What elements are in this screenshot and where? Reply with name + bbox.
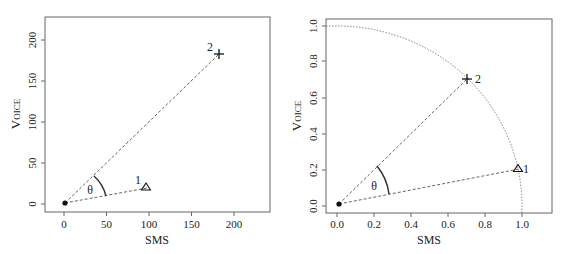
- x-tick-label: 100: [141, 218, 158, 230]
- right-x-axis-label: SMS: [417, 233, 441, 247]
- y-tick-label: 1.0: [307, 19, 319, 33]
- right-plot: 0.0 0.2 0.4 0.6 0.8 1.0 SMS 0.0 0.2 0.4 …: [289, 19, 552, 247]
- theta-label: θ: [371, 179, 377, 193]
- left-y-axis: [41, 40, 45, 204]
- y-tick-label: 0.4: [307, 127, 319, 141]
- x-tick-label: 0.2: [367, 218, 381, 230]
- origin-point-marker: [62, 200, 67, 205]
- left-x-tick-labels: 0 50 100 150 200: [61, 218, 243, 230]
- point-2-label: 2: [475, 72, 481, 86]
- point-1-label: 1: [523, 162, 529, 176]
- y-tick-label: 50: [26, 157, 38, 169]
- left-x-axis-label: SMS: [145, 233, 169, 247]
- point-1-label: 1: [135, 173, 141, 187]
- x-tick-label: 0.6: [441, 218, 455, 230]
- left-x-axis: [64, 212, 234, 216]
- left-plot-frame: [45, 17, 270, 212]
- y-tick-label: 150: [26, 72, 38, 89]
- x-tick-label: 50: [101, 218, 113, 230]
- origin-point-marker: [336, 201, 341, 206]
- x-tick-label: 1.0: [515, 218, 529, 230]
- right-y-axis: [322, 26, 326, 206]
- x-tick-label: 150: [183, 218, 200, 230]
- vector-line-2: [339, 78, 468, 204]
- y-tick-label: 0.6: [307, 91, 319, 105]
- y-tick-label: 0.8: [307, 54, 319, 68]
- x-tick-label: 0.4: [404, 218, 418, 230]
- x-tick-label: 0.0: [330, 218, 344, 230]
- left-y-tick-labels: 0 50 100 150 200: [26, 31, 38, 207]
- vector-line-2: [65, 55, 218, 203]
- figure: 0 50 100 150 200 SMS 0 50 100 150 200 VO…: [0, 0, 562, 254]
- right-x-axis: [337, 213, 522, 217]
- y-tick-label: 0.2: [307, 163, 319, 177]
- point-2-plus-marker: [214, 49, 224, 59]
- y-tick-label: 0: [26, 201, 38, 207]
- left-plot: 0 50 100 150 200 SMS 0 50 100 150 200 VO…: [8, 17, 270, 247]
- left-y-axis-label: VOICE: [8, 98, 23, 129]
- right-plot-frame: [326, 19, 552, 213]
- right-y-axis-label: VOICE: [289, 100, 304, 131]
- unit-circle-arc: [326, 26, 522, 213]
- x-tick-label: 200: [226, 218, 243, 230]
- theta-angle-arc: [377, 166, 389, 194]
- y-tick-label: 200: [26, 31, 38, 48]
- theta-angle-arc: [94, 176, 106, 196]
- point-1-triangle-marker: [142, 183, 151, 190]
- right-y-tick-labels: 0.0 0.2 0.4 0.6 0.8 1.0: [307, 19, 319, 213]
- vector-line-1: [339, 169, 519, 204]
- x-tick-label: 0: [61, 218, 67, 230]
- x-tick-label: 0.8: [478, 218, 492, 230]
- theta-label: θ: [87, 183, 93, 197]
- y-tick-label: 100: [26, 113, 38, 130]
- point-2-label: 2: [207, 40, 213, 54]
- right-x-tick-labels: 0.0 0.2 0.4 0.6 0.8 1.0: [330, 218, 529, 230]
- point-2-plus-marker: [462, 74, 472, 84]
- y-tick-label: 0.0: [307, 199, 319, 213]
